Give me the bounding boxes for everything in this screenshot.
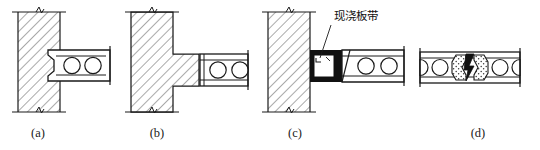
band-void-pocket-c [314,55,334,77]
slab-void-a-2 [85,57,101,73]
construction-detail-drawing: (a) (b) [0,0,540,150]
slab-void-c-1 [358,58,374,74]
slab-void-d-1 [432,60,448,76]
slab-void-b-1 [210,62,226,78]
panel-caption-d: (d) [471,126,486,140]
slab-void-c-2 [381,58,397,74]
panel-caption-b: (b) [150,126,165,140]
panel-caption-c: (c) [288,126,302,140]
panel-caption-a: (a) [31,126,45,140]
slab-void-b-2 [232,62,248,78]
slab-void-a-1 [64,57,80,73]
slab-void-d-2 [492,60,508,76]
figure-container: (a) (b) [0,0,540,150]
annotation-label-cast-in-place-band: 现浇板带 [334,9,378,23]
wall-section-c [268,12,310,112]
